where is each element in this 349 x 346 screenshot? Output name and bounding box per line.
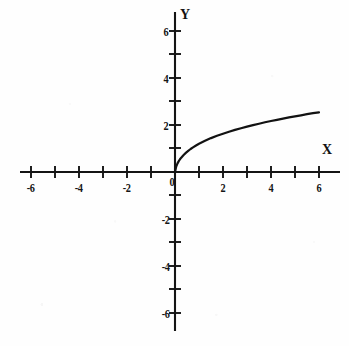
- x-tick-label-pos2: 2: [220, 182, 225, 194]
- x-tick-label-neg2: -2: [123, 182, 131, 194]
- x-tick-label-neg6: -6: [27, 182, 35, 194]
- cartesian-plot: [0, 0, 349, 346]
- y-axis-label: Y: [180, 8, 190, 22]
- x-axis-label: X: [322, 143, 332, 157]
- x-tick-label-neg4: -4: [75, 182, 83, 194]
- y-tick-label-neg6: -6: [162, 308, 170, 320]
- sqrt-curve: [175, 112, 319, 172]
- origin-label: 0: [169, 176, 174, 188]
- y-tick-label-pos6: 6: [163, 26, 168, 38]
- x-tick-label-pos4: 4: [268, 182, 273, 194]
- x-tick-label-pos6: 6: [316, 182, 321, 194]
- y-tick-label-neg2: -2: [162, 214, 170, 226]
- y-tick-label-neg4: -4: [162, 261, 170, 273]
- y-tick-label-pos4: 4: [163, 73, 168, 85]
- y-tick-label-pos2: 2: [163, 120, 168, 132]
- graph-figure: Y X 0 -6 -4 -2 2 4 6 6 4 2 -2 -4 -6: [0, 0, 349, 346]
